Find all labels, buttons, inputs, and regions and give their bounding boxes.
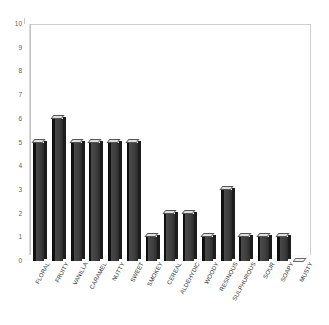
x-axis: FLORALFRUITYVANILLACARAMELNUTTYSWEETSMOK… [30,261,311,325]
bar-slot [274,24,293,261]
bar-slot [49,24,68,261]
bar[interactable] [33,143,44,262]
y-tick-label: 4 [6,163,22,170]
bar-slot [161,24,180,261]
bar-slot [124,24,143,261]
bar-slot [255,24,274,261]
bar[interactable] [183,214,194,261]
y-tick-label: 3 [6,187,22,194]
x-tick-label: VANILLA [50,261,89,325]
bar-slot [142,24,161,261]
x-tick-label: SOAPY [256,261,295,325]
bar[interactable] [89,143,100,262]
y-tick-label: 9 [6,44,22,51]
y-tick-label: 5 [6,139,22,146]
x-tick-label: NUTTY [88,261,127,325]
bar-slot [180,24,199,261]
bar[interactable] [146,237,157,261]
bar[interactable] [221,190,232,261]
x-tick-label: ALDEHYDIC [163,261,202,325]
bar[interactable] [71,143,82,262]
bar[interactable] [52,119,63,261]
x-tick-label: SOUR [238,261,277,325]
y-axis: 109876543210 [6,18,22,261]
bar-slot [236,24,255,261]
x-tick-label: SMOKEY [125,261,164,325]
y-tick-label: 8 [6,68,22,75]
bar-slot [30,24,49,261]
bar[interactable] [127,143,138,262]
bar-slot [105,24,124,261]
bar-chart-figure: 109876543210 FLORALFRUITYVANILLACARAMELN… [0,0,329,325]
x-tick-label: SULPHUROUS [219,261,258,325]
y-tick-label: 0 [6,258,22,265]
bar-slot [217,24,236,261]
bar-slot [292,24,311,261]
bar-slot [86,24,105,261]
bar[interactable] [277,237,288,261]
x-tick-label: CEREAL [144,261,183,325]
bars-layer [30,24,311,261]
bar[interactable] [239,237,250,261]
bar-slot [199,24,218,261]
bar[interactable] [202,237,213,261]
bar[interactable] [164,214,175,261]
x-tick-label: FRUITY [32,261,71,325]
y-tick-label: 1 [6,234,22,241]
bar[interactable] [108,143,119,262]
y-tick-label: 7 [6,92,22,99]
bar-slot [67,24,86,261]
y-tick-label: 2 [6,210,22,217]
x-tick-label: FLORAL [13,261,52,325]
bar[interactable] [258,237,269,261]
x-tick-label: SWEET [107,261,146,325]
y-tick-label: 10 [6,21,22,28]
x-tick-label: WOODY [182,261,221,325]
y-tick-label: 6 [6,116,22,123]
x-tick-label: MUSTY [275,261,314,325]
